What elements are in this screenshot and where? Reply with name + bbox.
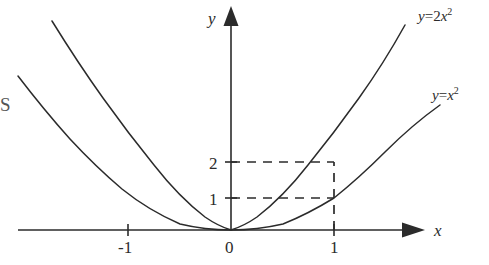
curve-label-y: y [418,8,425,24]
curve-label-y-equals-2x-squared: y=2x2 [418,9,452,24]
curve-label-coefficient: 2 [433,8,441,24]
x-tick-label-minus-1: -1 [118,239,132,256]
curve-label-exponent: 2 [447,6,452,17]
curve2-label-variable: x [447,87,454,103]
curve-label-y-equals-x-squared: y=x2 [432,88,459,103]
y-axis-label: y [208,10,216,27]
left-edge-cropped-glyph: S [0,95,11,114]
curve2-label-equals: = [439,87,447,103]
y-axis-arrowhead [224,6,239,26]
y-tick-label-1: 1 [209,191,218,208]
curve2-label-y: y [432,87,439,103]
curve-label-equals: = [425,8,433,24]
x-axis-arrowhead [402,223,425,238]
y-tick-label-2: 2 [209,155,218,172]
x-axis-label: x [434,222,442,239]
curve-y-equals-x-squared [18,76,440,230]
graph-canvas [0,0,489,265]
x-tick-label-1: 1 [330,239,339,256]
origin-label: 0 [225,239,234,256]
curve2-label-exponent: 2 [454,85,459,96]
math-graph-figure: y x 0 -1 1 1 2 y=2x2 y=x2 S [0,0,489,265]
